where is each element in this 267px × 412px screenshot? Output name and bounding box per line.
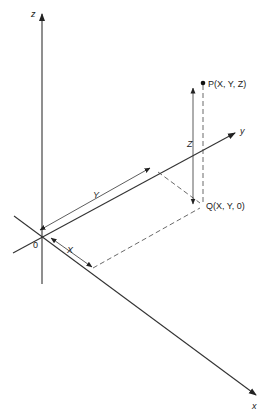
z-dimension-label: Z xyxy=(186,139,193,149)
projection-lines xyxy=(93,85,203,268)
y-dimension-label: Y xyxy=(93,190,100,200)
x-axis-label: x xyxy=(251,401,257,411)
x-axis xyxy=(14,216,256,395)
point-q-label: Q(X, Y, 0) xyxy=(206,201,245,211)
x-dimension-label: X xyxy=(66,245,74,255)
coordinate-diagram: z y x 0 Y X Z P(X, Y, Z) Q(X, Y, 0) xyxy=(0,0,267,412)
y-axis xyxy=(13,133,235,253)
point-p-marker xyxy=(201,81,206,86)
z-axis-label: z xyxy=(30,9,36,19)
point-p-label: P(X, Y, Z) xyxy=(208,79,246,89)
y-axis-label: y xyxy=(239,126,245,136)
origin-label: 0 xyxy=(33,240,38,250)
